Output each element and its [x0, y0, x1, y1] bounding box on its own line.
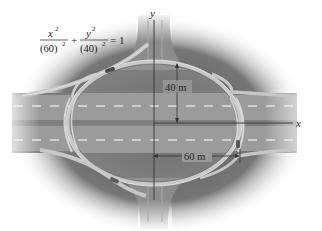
interchange-diagram: y x 40 m 60 m x 2 (60) 2: [0, 0, 322, 231]
equation-term1-denominator: (60): [40, 43, 58, 55]
equation-term1-denominator-exponent: 2: [62, 40, 66, 48]
equation-equals-one: = 1: [110, 34, 124, 46]
car-icon: [236, 140, 240, 148]
equation-term2-numerator-exponent: 2: [92, 25, 96, 33]
y-axis-label: y: [149, 7, 155, 19]
dimension-label-60m: 60 m: [184, 151, 205, 162]
equation-plus: +: [71, 34, 77, 46]
dimension-label-40m: 40 m: [165, 82, 186, 93]
equation-term2-numerator: y: [85, 27, 91, 39]
equation-term2-denominator: (40): [80, 43, 98, 55]
equation-term2-denominator-exponent: 2: [102, 40, 106, 48]
x-axis-label: x: [295, 117, 301, 129]
interchange-figure: y x 40 m 60 m x 2 (60) 2: [0, 0, 322, 231]
equation-term1-numerator: x: [47, 27, 53, 39]
equation-term1-numerator-exponent: 2: [55, 25, 59, 33]
